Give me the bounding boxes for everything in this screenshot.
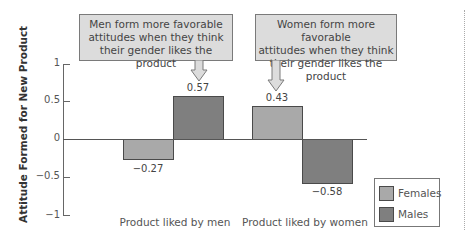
- annotation-men: Men form more favorable attitudes when t…: [79, 14, 233, 61]
- legend-label: Males: [398, 208, 428, 220]
- annotation-line: Men form more favorable: [80, 18, 232, 31]
- legend: Females Males: [374, 178, 440, 227]
- annotation-line: their gender likes the product: [80, 44, 232, 70]
- y-tick: [63, 215, 70, 216]
- arrow-down-icon: [190, 60, 208, 82]
- y-tick-label: 1: [30, 57, 60, 68]
- arrow-down-icon: [267, 60, 285, 92]
- annotation-line: attitudes when they think: [256, 44, 396, 57]
- y-tick: [63, 177, 70, 178]
- y-tick-label: 0.5: [30, 94, 60, 105]
- y-tick-label: −0.5: [30, 170, 60, 181]
- value-label-females-men: −0.27: [123, 163, 173, 174]
- y-tick: [63, 64, 70, 65]
- bar-males-men: [173, 96, 224, 140]
- y-axis-label: Attitude Formed for New Product: [17, 53, 29, 223]
- category-label-men: Product liked by men: [110, 216, 240, 228]
- y-axis-line: [63, 64, 64, 216]
- value-label-females-women: 0.43: [252, 92, 302, 103]
- bar-females-women: [252, 106, 303, 140]
- category-label-women: Product liked by women: [240, 216, 370, 228]
- legend-swatch-females: [379, 186, 394, 201]
- legend-swatch-males: [379, 207, 394, 222]
- y-tick-label: 0: [30, 132, 60, 143]
- legend-item-females: Females: [379, 185, 441, 201]
- bar-females-men: [123, 139, 174, 160]
- value-label-males-men: 0.57: [173, 82, 223, 93]
- legend-item-males: Males: [379, 206, 428, 222]
- page-edge-divider: [464, 10, 465, 230]
- annotation-line: attitudes when they think: [80, 31, 232, 44]
- annotation-women: Women form more favorable attitudes when…: [255, 14, 397, 61]
- y-tick-label: −1: [30, 209, 60, 220]
- value-label-males-women: −0.58: [302, 186, 352, 197]
- y-tick: [63, 101, 70, 102]
- legend-label: Females: [398, 187, 441, 199]
- zero-baseline: [63, 139, 367, 140]
- annotation-line: Women form more favorable: [256, 18, 396, 44]
- bar-males-women: [302, 139, 353, 184]
